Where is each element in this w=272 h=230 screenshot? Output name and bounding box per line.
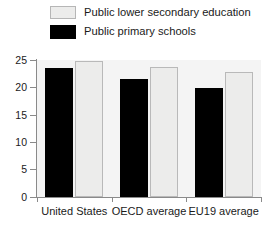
y-tick-10: [30, 142, 37, 143]
x-tick-1: [112, 197, 113, 202]
y-tick-label-15: 15: [3, 110, 27, 121]
bar-chart-figure: Public lower secondary education Public …: [0, 0, 272, 230]
bar-primary-2: [195, 88, 223, 197]
y-tick-label-5: 5: [3, 164, 27, 175]
legend-item-primary: Public primary schools: [50, 22, 270, 41]
bar-lower-secondary-2: [225, 72, 253, 197]
y-tick-5: [30, 169, 37, 170]
y-tick-15: [30, 115, 37, 116]
x-tick-edge-0: [37, 197, 38, 202]
y-tick-20: [30, 87, 37, 88]
y-tick-label-25: 25: [3, 55, 27, 66]
x-axis-label-2: EU19 average: [186, 205, 261, 217]
bar-primary-0: [45, 68, 73, 197]
y-tick-label-10: 10: [3, 137, 27, 148]
chart-legend: Public lower secondary education Public …: [50, 3, 270, 41]
x-axis-label-1: OECD average: [112, 205, 187, 217]
y-tick-25: [30, 60, 37, 61]
y-tick-0: [30, 197, 37, 198]
bar-lower-secondary-0: [75, 61, 103, 197]
y-tick-label-20: 20: [3, 82, 27, 93]
x-tick-2: [186, 197, 187, 202]
y-tick-label-0: 0: [3, 192, 27, 203]
legend-label-primary: Public primary schools: [84, 25, 196, 38]
x-axis-line: [36, 197, 262, 198]
y-axis-line: [36, 59, 37, 198]
x-axis-label-0: United States: [37, 205, 112, 217]
legend-swatch-dark-icon: [50, 25, 76, 39]
bar-primary-1: [120, 79, 148, 197]
bar-lower-secondary-1: [150, 67, 178, 197]
legend-label-lower-secondary: Public lower secondary education: [84, 6, 251, 19]
legend-item-lower-secondary: Public lower secondary education: [50, 3, 270, 22]
legend-swatch-light-icon: [50, 6, 76, 19]
x-tick-edge-1: [261, 197, 262, 202]
